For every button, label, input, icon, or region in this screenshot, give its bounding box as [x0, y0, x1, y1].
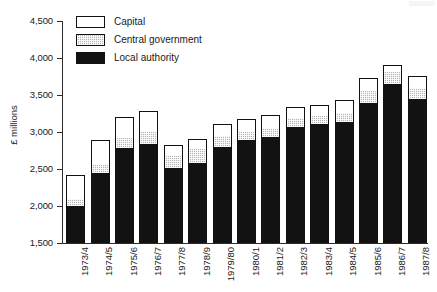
y-tick-label: 4,000 — [0, 53, 53, 63]
bar-segment-central-government — [188, 149, 207, 163]
bar-segment-central-government — [383, 72, 402, 83]
bar-segment-local-authority — [164, 168, 183, 243]
bar-segment-capital — [213, 124, 232, 137]
bar-segment-central-government — [310, 116, 329, 124]
bar-segment-central-government — [164, 155, 183, 168]
bar-1982-3 — [286, 107, 305, 243]
bar-1975-6 — [115, 117, 134, 243]
bar-segment-capital — [310, 105, 329, 115]
bar-segment-central-government — [335, 113, 354, 122]
central-government-swatch-icon — [76, 34, 105, 46]
bar-segment-capital — [66, 175, 85, 199]
bar-segment-capital — [237, 119, 256, 133]
y-tick-label: 4,500 — [0, 16, 53, 26]
bar-segment-central-government — [66, 199, 85, 206]
bar-1986-7 — [383, 65, 402, 243]
bar-segment-capital — [286, 107, 305, 118]
bar-segment-capital — [115, 117, 134, 137]
y-tick-label: 2,000 — [0, 201, 53, 211]
legend-label-local-authority: Local authority — [114, 53, 179, 63]
bar-segment-central-government — [91, 165, 110, 173]
local-authority-swatch-icon — [76, 52, 105, 64]
bar-segment-capital — [164, 145, 183, 155]
bar-segment-local-authority — [359, 103, 378, 243]
bar-1977-8 — [164, 145, 183, 243]
bar-segment-capital — [359, 78, 378, 91]
y-tick-label: 1,500 — [0, 238, 53, 248]
y-tick-label: 3,500 — [0, 90, 53, 100]
x-axis-line — [62, 243, 428, 244]
bar-segment-local-authority — [286, 127, 305, 243]
bar-1976-7 — [139, 111, 158, 243]
x-tick-label: 1976/7 — [153, 247, 163, 276]
bar-segment-capital — [383, 65, 402, 72]
scan-artifact — [409, 1, 435, 6]
bar-segment-capital — [91, 140, 110, 165]
bar-1980-1 — [237, 119, 256, 243]
y-tick-label: 3,000 — [0, 127, 53, 137]
x-tick-label: 1977/8 — [177, 247, 187, 276]
y-tick-label: 2,500 — [0, 164, 53, 174]
bar-1983-4 — [310, 105, 329, 243]
bar-segment-local-authority — [188, 163, 207, 243]
bar-1985-6 — [359, 78, 378, 243]
legend: Capital Central government Local authori… — [76, 14, 202, 68]
bar-segment-central-government — [213, 136, 232, 147]
bar-segment-central-government — [115, 138, 134, 149]
bar-segment-central-government — [359, 91, 378, 104]
bar-1987-8 — [408, 76, 427, 243]
x-tick-label: 1978/9 — [202, 247, 212, 276]
x-tick-label: 1974/5 — [104, 247, 114, 276]
bar-segment-central-government — [408, 89, 427, 99]
bar-segment-local-authority — [383, 84, 402, 243]
legend-item-capital: Capital — [76, 14, 202, 30]
bar-segment-central-government — [237, 132, 256, 140]
bar-segment-central-government — [261, 129, 280, 137]
bar-segment-local-authority — [335, 122, 354, 243]
x-tick-label: 1984/5 — [348, 247, 358, 276]
bar-segment-local-authority — [115, 148, 134, 243]
bar-segment-local-authority — [310, 124, 329, 244]
legend-label-capital: Capital — [114, 17, 145, 27]
bar-segment-local-authority — [91, 173, 110, 243]
bar-segment-local-authority — [139, 144, 158, 243]
x-tick-label: 1983/4 — [324, 247, 334, 276]
bar-segment-capital — [335, 100, 354, 113]
bar-1979-80 — [213, 124, 232, 244]
x-tick-label: 1980/1 — [251, 247, 261, 276]
bar-segment-local-authority — [408, 99, 427, 243]
x-tick-label: 1987/8 — [421, 247, 431, 276]
bar-segment-local-authority — [261, 137, 280, 243]
x-tick-label: 1982/3 — [299, 247, 309, 276]
x-tick-label: 1981/2 — [275, 247, 285, 276]
bar-segment-capital — [261, 115, 280, 129]
bar-segment-local-authority — [237, 140, 256, 243]
x-tick-label: 1973/4 — [80, 247, 90, 276]
stacked-bar-chart: £ millions 1,5002,0002,5003,0003,5004,00… — [0, 0, 437, 292]
bar-1973-4 — [66, 175, 85, 243]
bar-segment-capital — [139, 111, 158, 131]
bar-segment-local-authority — [66, 206, 85, 243]
bar-segment-central-government — [286, 118, 305, 127]
bar-1974-5 — [91, 140, 110, 243]
legend-label-central-government: Central government — [114, 35, 202, 45]
bar-1984-5 — [335, 100, 354, 243]
bar-segment-capital — [408, 76, 427, 89]
bar-1981-2 — [261, 115, 280, 243]
bar-segment-central-government — [139, 131, 158, 144]
capital-swatch-icon — [76, 16, 105, 28]
bar-segment-capital — [188, 139, 207, 149]
x-tick-label: 1975/6 — [129, 247, 139, 276]
bar-1978-9 — [188, 139, 207, 243]
x-tick-label: 1985/6 — [373, 247, 383, 276]
legend-item-central-government: Central government — [76, 32, 202, 48]
x-tick-label: 1979/80 — [226, 247, 236, 281]
y-tick-mark — [57, 243, 62, 244]
x-tick-label: 1986/7 — [397, 247, 407, 276]
bar-segment-local-authority — [213, 147, 232, 243]
legend-item-local-authority: Local authority — [76, 50, 202, 66]
